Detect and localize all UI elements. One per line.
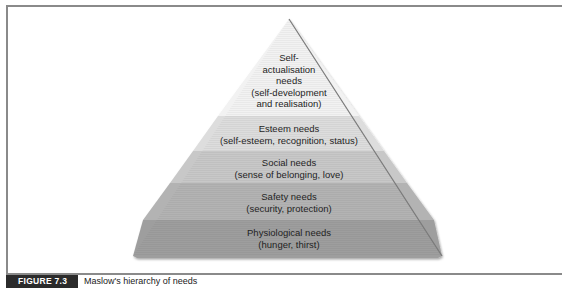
label-social: Social needs (sense of belonging, love) bbox=[235, 157, 344, 180]
label-safety: Safety needs (security, protection) bbox=[246, 191, 331, 214]
figure-number-badge: FIGURE 7.3 bbox=[6, 275, 78, 288]
label-esteem: Esteem needs (self-esteem, recognition, … bbox=[220, 123, 358, 146]
label-physiological: Physiological needs (hunger, thirst) bbox=[247, 227, 331, 250]
label-self-actualisation: Self- actualisation needs (self-developm… bbox=[251, 52, 327, 110]
figure-caption: Maslow's hierarchy of needs bbox=[84, 275, 197, 288]
